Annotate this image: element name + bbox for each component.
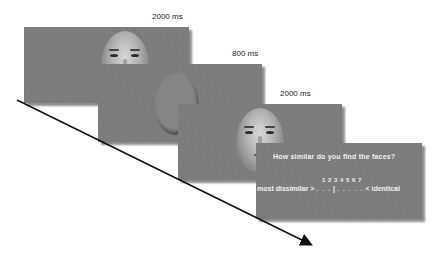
time-arrow-icon: [0, 0, 440, 257]
